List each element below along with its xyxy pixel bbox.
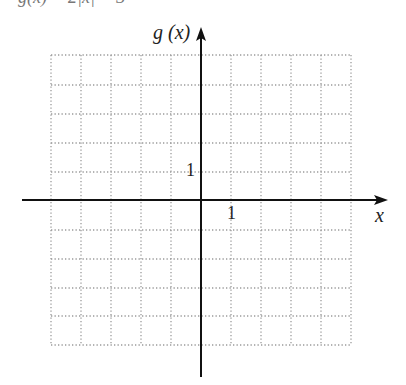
y-tick-label: 1	[186, 160, 195, 181]
x-tick-label: 1	[227, 203, 236, 224]
y-axis-label: g (x)	[153, 21, 190, 44]
x-axis-label: x	[375, 204, 384, 227]
coordinate-plane: g(x) = 2|x| − 3	[0, 0, 406, 385]
axes	[22, 38, 378, 377]
graph-canvas	[0, 0, 406, 385]
